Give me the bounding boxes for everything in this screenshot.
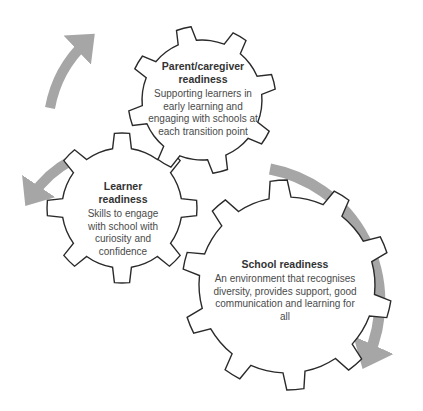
school-readiness-label: School readiness An environment that rec… bbox=[212, 258, 358, 323]
parent-readiness-description: Supporting learners in early learning an… bbox=[148, 88, 258, 138]
parent-readiness-title: Parent/caregiver readiness bbox=[148, 60, 258, 86]
parent-title-line-2: readiness bbox=[148, 73, 258, 86]
learner-readiness-label: Learner readiness Skills to engage with … bbox=[78, 180, 168, 258]
learner-readiness-title: Learner readiness bbox=[78, 180, 168, 206]
school-readiness-title: School readiness bbox=[212, 258, 358, 271]
arrow-learner-to-parent bbox=[50, 42, 86, 108]
parent-readiness-label: Parent/caregiver readiness Supporting le… bbox=[148, 60, 258, 138]
learner-readiness-description: Skills to engage with school with curios… bbox=[78, 208, 168, 258]
parent-title-line-1: Parent/caregiver bbox=[148, 60, 258, 73]
school-readiness-description: An environment that recognises diversity… bbox=[212, 273, 358, 323]
